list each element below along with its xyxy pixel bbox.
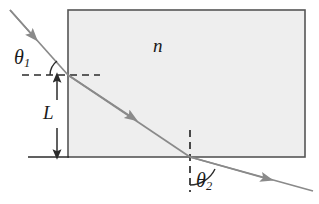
label-theta2-subscript: 2 (206, 179, 212, 193)
label-thickness: L (43, 103, 54, 122)
label-theta2-symbol: θ (196, 169, 206, 191)
incident-ray-arrowhead (10, 10, 34, 37)
label-theta1-symbol: θ (14, 46, 24, 68)
label-theta2: θ2 (196, 170, 212, 193)
label-theta1: θ1 (14, 47, 30, 70)
medium-block (68, 10, 305, 157)
label-refractive-index: n (153, 36, 163, 55)
refraction-diagram: θ1 θ2 L n (0, 0, 319, 204)
label-theta1-subscript: 1 (24, 56, 30, 70)
angle-arc-theta1 (50, 61, 57, 75)
